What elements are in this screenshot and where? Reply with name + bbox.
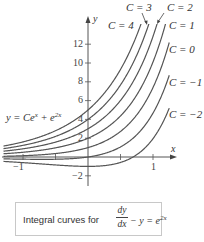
curve-label-cm1: C = −1 xyxy=(169,77,202,88)
y-tick-label: 4 xyxy=(78,114,83,124)
pointer-arrow-icon xyxy=(144,21,147,26)
label-text: C = 3 xyxy=(126,1,152,13)
curve-label-cm2: C = −2 xyxy=(169,109,202,120)
equation-exponent: 2x xyxy=(55,111,62,119)
x-axis-arrow-icon xyxy=(170,155,177,160)
label-text: C = 1 xyxy=(169,19,195,31)
caption-prefix: Integral curves for xyxy=(23,214,99,225)
label-text: C = 2 xyxy=(167,1,193,13)
fraction-bar xyxy=(116,217,128,218)
y-tick-label: 2 xyxy=(78,133,83,143)
label-text: C = −2 xyxy=(169,108,202,120)
caption-equation-text: − y = e xyxy=(130,215,160,226)
label-text: C = 0 xyxy=(169,43,195,55)
curve-label-c4: C = 4 xyxy=(108,20,134,31)
y-axis-arrow-icon xyxy=(86,16,91,23)
y-tick-label: 6 xyxy=(78,95,83,105)
derivative-fraction: dy dx xyxy=(116,205,128,230)
y-tick-label: 10 xyxy=(73,58,83,68)
y-axis-label: y xyxy=(93,14,97,24)
label-text: C = −1 xyxy=(169,76,202,88)
caption-exponent: 2x xyxy=(160,214,167,222)
equation-label: y = Cex + e2x xyxy=(6,112,61,124)
y-tick-label: −2 xyxy=(72,171,83,181)
y-tick-label: 8 xyxy=(78,76,83,86)
x-tick-label: 1 xyxy=(151,162,156,172)
caption-box: Integral curves for dy dx − y = e2x xyxy=(15,202,162,236)
y-tick-label: 12 xyxy=(73,39,83,49)
fraction-denominator: dx xyxy=(116,219,128,230)
curve-label-c2: C = 2 xyxy=(167,2,193,13)
curve-label-c0: C = 0 xyxy=(169,44,195,55)
label-text: C = 4 xyxy=(108,19,134,31)
x-axis-label: x xyxy=(171,144,175,154)
curve-group xyxy=(4,7,170,166)
caption-equation: − y = e2x xyxy=(130,214,166,226)
fraction-numerator: dy xyxy=(116,205,128,216)
curve-label-c3: C = 3 xyxy=(126,2,152,13)
y-axis-label-text: y xyxy=(93,13,97,24)
curve-label-c1: C = 1 xyxy=(169,20,195,31)
x-axis-label-text: x xyxy=(171,143,175,154)
equation-part: y = Ce xyxy=(6,112,35,123)
equation-part: + e xyxy=(38,112,55,123)
x-tick-label: −1 xyxy=(13,162,24,172)
pointer-arrow-icon xyxy=(157,20,160,25)
